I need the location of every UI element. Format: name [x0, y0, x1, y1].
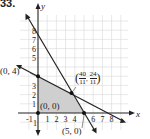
y-axis-label: y	[40, 1, 45, 11]
linear-programming-graph: -1 1 2 3 4 6 7 8 1 2 3 5 6 7 8 1 x y	[0, 0, 150, 139]
fraction-x: 40 11	[79, 71, 86, 86]
svg-text:6: 6	[91, 115, 95, 124]
x-axis-arrow-icon	[129, 111, 135, 116]
y-axis-arrow-icon	[36, 3, 41, 9]
svg-text:1: 1	[33, 119, 37, 128]
svg-text:4: 4	[73, 115, 77, 124]
y-axis-down-arrow-icon	[36, 130, 41, 136]
label-point-0-4: (0, 4)	[0, 66, 20, 76]
svg-text:2: 2	[55, 115, 59, 124]
label-point-0-0: (0, 0)	[40, 101, 60, 111]
svg-text:7: 7	[32, 36, 36, 45]
svg-text:2: 2	[32, 91, 36, 100]
svg-text:1: 1	[32, 100, 36, 109]
svg-text:1: 1	[46, 115, 50, 124]
x-axis-label: x	[135, 109, 140, 119]
label-intersection-point: ( 40 11 , 24 11 )	[75, 71, 101, 86]
svg-text:6: 6	[32, 45, 36, 54]
close-paren: )	[97, 71, 101, 86]
fraction-y: 24 11	[90, 71, 97, 86]
svg-text:-1: -1	[26, 115, 33, 124]
svg-text:5: 5	[32, 54, 36, 63]
arrow-icon	[26, 14, 31, 21]
svg-text:3: 3	[32, 82, 36, 91]
svg-text:8: 8	[110, 115, 114, 124]
svg-text:7: 7	[100, 115, 104, 124]
svg-text:8: 8	[32, 27, 36, 36]
label-point-5-0: (5, 0)	[62, 126, 82, 136]
svg-text:3: 3	[64, 115, 68, 124]
